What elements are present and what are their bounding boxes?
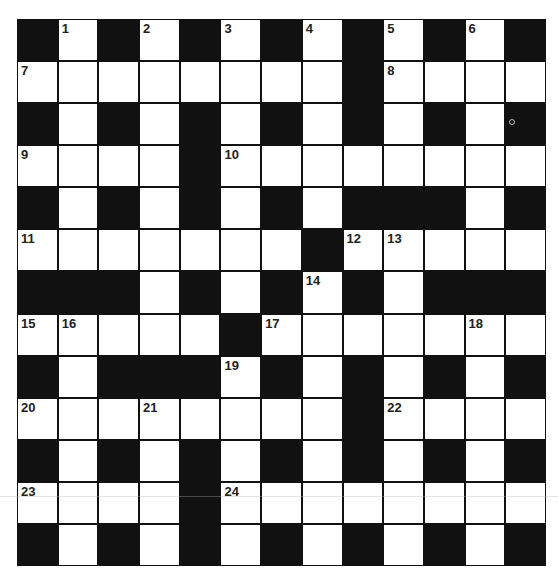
answer-cell[interactable] bbox=[303, 525, 342, 565]
answer-cell[interactable] bbox=[262, 230, 301, 270]
answer-cell[interactable] bbox=[506, 146, 545, 186]
answer-cell[interactable] bbox=[140, 146, 179, 186]
answer-cell[interactable] bbox=[344, 315, 383, 355]
answer-cell[interactable] bbox=[506, 62, 545, 102]
answer-cell[interactable] bbox=[99, 230, 138, 270]
answer-cell[interactable]: 3 bbox=[221, 20, 260, 60]
answer-cell[interactable] bbox=[140, 230, 179, 270]
answer-cell[interactable] bbox=[303, 146, 342, 186]
answer-cell[interactable] bbox=[221, 399, 260, 439]
answer-cell[interactable] bbox=[221, 104, 260, 144]
answer-cell[interactable] bbox=[181, 399, 220, 439]
answer-cell[interactable]: 13 bbox=[384, 230, 423, 270]
answer-cell[interactable] bbox=[303, 188, 342, 228]
answer-cell[interactable]: 18 bbox=[466, 315, 505, 355]
answer-cell[interactable] bbox=[425, 483, 464, 523]
answer-cell[interactable]: 23 bbox=[18, 483, 57, 523]
answer-cell[interactable] bbox=[506, 399, 545, 439]
answer-cell[interactable] bbox=[303, 62, 342, 102]
answer-cell[interactable] bbox=[466, 525, 505, 565]
answer-cell[interactable] bbox=[344, 483, 383, 523]
answer-cell[interactable]: 22 bbox=[384, 399, 423, 439]
answer-cell[interactable] bbox=[425, 399, 464, 439]
answer-cell[interactable] bbox=[303, 357, 342, 397]
answer-cell[interactable] bbox=[59, 357, 98, 397]
answer-cell[interactable] bbox=[59, 483, 98, 523]
answer-cell[interactable] bbox=[466, 483, 505, 523]
answer-cell[interactable] bbox=[262, 146, 301, 186]
answer-cell[interactable] bbox=[59, 62, 98, 102]
answer-cell[interactable] bbox=[221, 188, 260, 228]
answer-cell[interactable]: 7 bbox=[18, 62, 57, 102]
answer-cell[interactable] bbox=[59, 399, 98, 439]
answer-cell[interactable] bbox=[140, 525, 179, 565]
answer-cell[interactable] bbox=[181, 230, 220, 270]
answer-cell[interactable]: 2 bbox=[140, 20, 179, 60]
answer-cell[interactable]: 8 bbox=[384, 62, 423, 102]
answer-cell[interactable]: 14 bbox=[303, 272, 342, 312]
answer-cell[interactable] bbox=[140, 315, 179, 355]
answer-cell[interactable]: 16 bbox=[59, 315, 98, 355]
answer-cell[interactable] bbox=[99, 399, 138, 439]
answer-cell[interactable] bbox=[303, 315, 342, 355]
answer-cell[interactable] bbox=[262, 399, 301, 439]
answer-cell[interactable]: 5 bbox=[384, 20, 423, 60]
answer-cell[interactable] bbox=[140, 62, 179, 102]
answer-cell[interactable]: 1 bbox=[59, 20, 98, 60]
answer-cell[interactable] bbox=[303, 104, 342, 144]
answer-cell[interactable]: 6 bbox=[466, 20, 505, 60]
answer-cell[interactable] bbox=[262, 62, 301, 102]
answer-cell[interactable] bbox=[466, 62, 505, 102]
answer-cell[interactable] bbox=[99, 62, 138, 102]
answer-cell[interactable] bbox=[221, 272, 260, 312]
answer-cell[interactable] bbox=[506, 483, 545, 523]
answer-cell[interactable] bbox=[425, 62, 464, 102]
answer-cell[interactable] bbox=[384, 146, 423, 186]
answer-cell[interactable] bbox=[384, 315, 423, 355]
answer-cell[interactable]: 17 bbox=[262, 315, 301, 355]
answer-cell[interactable] bbox=[59, 146, 98, 186]
answer-cell[interactable] bbox=[99, 146, 138, 186]
answer-cell[interactable]: 24 bbox=[221, 483, 260, 523]
answer-cell[interactable] bbox=[506, 230, 545, 270]
answer-cell[interactable] bbox=[384, 104, 423, 144]
answer-cell[interactable] bbox=[99, 483, 138, 523]
answer-cell[interactable] bbox=[344, 146, 383, 186]
answer-cell[interactable] bbox=[59, 104, 98, 144]
answer-cell[interactable] bbox=[262, 483, 301, 523]
answer-cell[interactable] bbox=[384, 441, 423, 481]
answer-cell[interactable]: 10 bbox=[221, 146, 260, 186]
answer-cell[interactable] bbox=[221, 62, 260, 102]
answer-cell[interactable] bbox=[384, 357, 423, 397]
answer-cell[interactable] bbox=[506, 315, 545, 355]
answer-cell[interactable] bbox=[425, 146, 464, 186]
answer-cell[interactable] bbox=[384, 525, 423, 565]
answer-cell[interactable]: 4 bbox=[303, 20, 342, 60]
answer-cell[interactable] bbox=[99, 315, 138, 355]
answer-cell[interactable] bbox=[466, 188, 505, 228]
answer-cell[interactable] bbox=[303, 399, 342, 439]
answer-cell[interactable] bbox=[303, 441, 342, 481]
answer-cell[interactable] bbox=[466, 357, 505, 397]
answer-cell[interactable] bbox=[221, 441, 260, 481]
answer-cell[interactable]: 19 bbox=[221, 357, 260, 397]
answer-cell[interactable] bbox=[181, 62, 220, 102]
answer-cell[interactable] bbox=[384, 272, 423, 312]
answer-cell[interactable]: 11 bbox=[18, 230, 57, 270]
answer-cell[interactable] bbox=[59, 525, 98, 565]
answer-cell[interactable] bbox=[221, 230, 260, 270]
answer-cell[interactable]: 20 bbox=[18, 399, 57, 439]
answer-cell[interactable] bbox=[140, 188, 179, 228]
answer-cell[interactable] bbox=[466, 441, 505, 481]
answer-cell[interactable]: 21 bbox=[140, 399, 179, 439]
answer-cell[interactable]: 9 bbox=[18, 146, 57, 186]
answer-cell[interactable]: 15 bbox=[18, 315, 57, 355]
answer-cell[interactable] bbox=[384, 483, 423, 523]
answer-cell[interactable] bbox=[221, 525, 260, 565]
answer-cell[interactable] bbox=[466, 230, 505, 270]
answer-cell[interactable] bbox=[181, 315, 220, 355]
answer-cell[interactable] bbox=[425, 315, 464, 355]
answer-cell[interactable] bbox=[140, 441, 179, 481]
answer-cell[interactable] bbox=[140, 104, 179, 144]
answer-cell[interactable] bbox=[303, 483, 342, 523]
